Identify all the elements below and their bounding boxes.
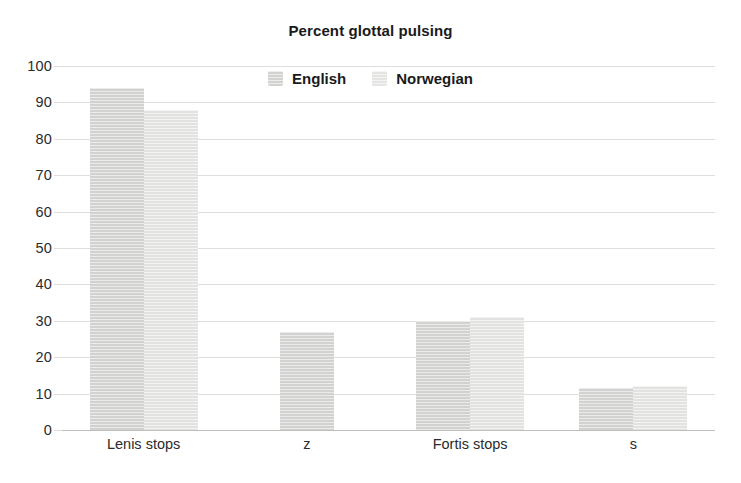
y-tick-mark [54,248,62,249]
y-tick-label: 50 [6,240,52,256]
bar-english-fortis-stops [416,321,470,430]
x-tick-label: Lenis stops [107,436,180,452]
bar-norwegian-lenis-stops [144,110,198,430]
y-tick-mark [54,66,62,67]
x-tick-label: Fortis stops [433,436,508,452]
y-tick-mark [54,175,62,176]
y-tick-label: 10 [6,386,52,402]
plot-area [62,66,715,430]
bar-english-lenis-stops [90,88,144,430]
y-tick-mark [54,394,62,395]
bar-norwegian-fortis-stops [470,317,524,430]
y-tick-label: 30 [6,313,52,329]
y-tick-mark [54,139,62,140]
bar-english-z [280,332,334,430]
chart-container: Percent glottal pulsing 0102030405060708… [0,0,741,483]
x-tick-label: z [303,436,310,452]
x-tick-label: s [630,436,637,452]
y-tick-label: 20 [6,349,52,365]
gridline [62,66,715,67]
y-tick-mark [54,102,62,103]
y-tick-mark [54,321,62,322]
x-axis-tick-labels: Lenis stopszFortis stopss [62,436,715,466]
y-tick-label: 0 [6,422,52,438]
y-tick-label: 100 [6,58,52,74]
y-tick-label: 70 [6,167,52,183]
axis-baseline [62,430,715,431]
chart-title: Percent glottal pulsing [0,22,741,39]
gridline [62,102,715,103]
y-tick-mark [54,430,62,431]
y-axis-tick-labels: 0102030405060708090100 [0,66,52,430]
bar-english-s [579,388,633,430]
y-tick-mark [54,212,62,213]
y-tick-label: 80 [6,131,52,147]
y-tick-label: 90 [6,94,52,110]
y-tick-label: 60 [6,204,52,220]
y-tick-label: 40 [6,276,52,292]
y-tick-mark [54,284,62,285]
y-tick-mark [54,357,62,358]
bar-norwegian-s [633,386,687,430]
